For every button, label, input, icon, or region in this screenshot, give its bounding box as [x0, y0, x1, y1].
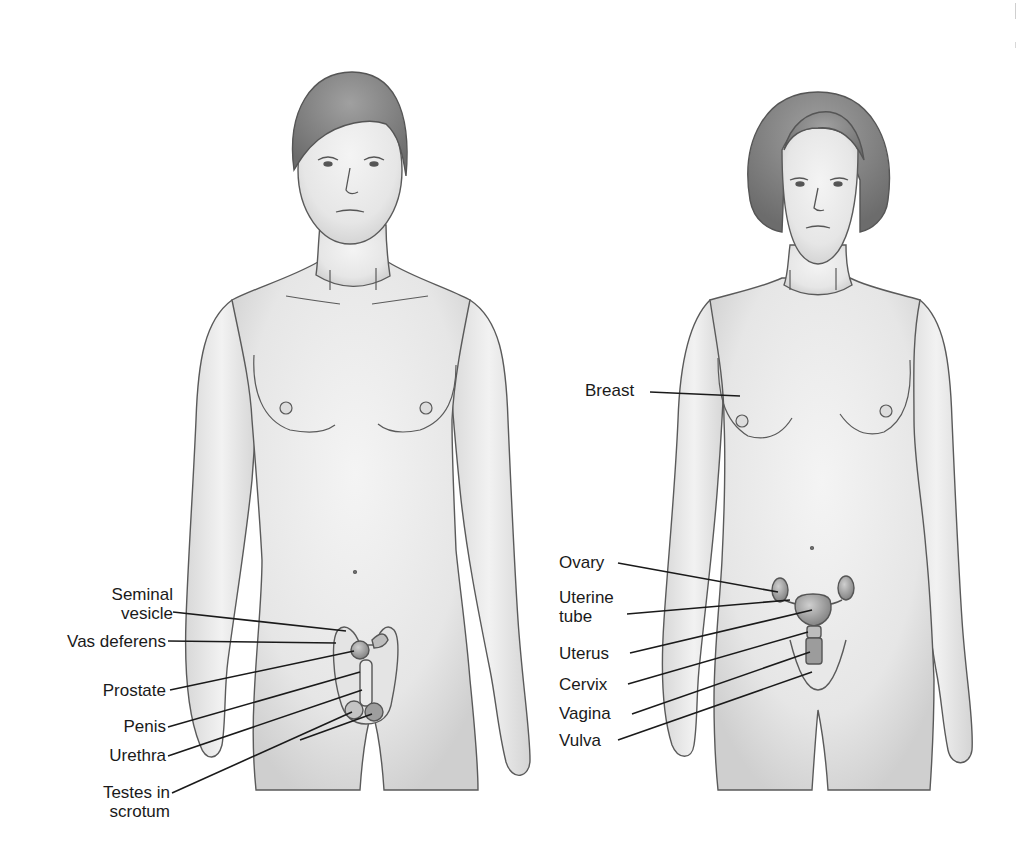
ovary-left [772, 578, 788, 602]
label-uterine-tube: Uterine tube [559, 588, 614, 626]
label-seminal-vesicle: Seminal vesicle [112, 585, 173, 623]
ovary-right [838, 576, 854, 600]
female-torso [710, 278, 934, 790]
female-head [782, 128, 858, 264]
label-uterine-tube-line2: tube [559, 607, 614, 626]
female-figure [662, 92, 972, 790]
prostate-gland [351, 641, 369, 659]
label-testes-line2: scrotum [103, 802, 170, 821]
label-urethra: Urethra [109, 746, 166, 765]
label-cervix: Cervix [559, 675, 607, 694]
label-seminal-vesicle-line1: Seminal [112, 585, 173, 604]
label-uterine-tube-line1: Uterine [559, 588, 614, 607]
penis-shaft [360, 660, 372, 706]
scan-artifact-dot [1015, 42, 1016, 48]
label-testes-in-scrotum: Testes in scrotum [103, 783, 170, 821]
male-figure [186, 72, 530, 790]
testis-left [345, 701, 363, 719]
label-vulva: Vulva [559, 731, 601, 750]
label-vas-deferens: Vas deferens [67, 632, 166, 651]
label-testes-line1: Testes in [103, 783, 170, 802]
label-prostate: Prostate [103, 681, 166, 700]
label-uterus: Uterus [559, 644, 609, 663]
scan-artifact-mark [1015, 3, 1016, 19]
label-vagina: Vagina [559, 704, 611, 723]
anatomy-diagram: Seminal vesicle Vas deferens Prostate Pe… [0, 0, 1028, 860]
label-penis: Penis [123, 717, 166, 736]
label-ovary: Ovary [559, 553, 604, 572]
testis-right [365, 703, 383, 721]
label-breast: Breast [585, 381, 634, 400]
vagina [806, 638, 822, 664]
cervix [807, 626, 821, 638]
label-seminal-vesicle-line2: vesicle [112, 604, 173, 623]
